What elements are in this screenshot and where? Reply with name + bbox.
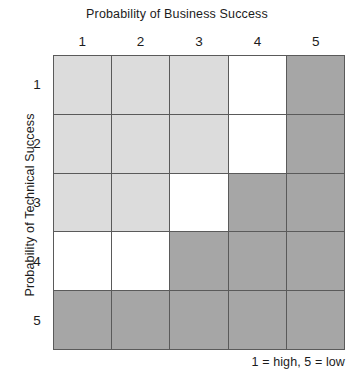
matrix-cell-r1-c3 bbox=[170, 56, 227, 114]
matrix-cell-r4-c1 bbox=[54, 232, 111, 290]
page-title: Probability of Business Success bbox=[0, 7, 354, 21]
matrix-cell-r5-c1 bbox=[54, 291, 111, 349]
matrix-cell-r5-c4 bbox=[229, 291, 286, 349]
matrix-cell-r3-c5 bbox=[287, 174, 344, 232]
matrix-cell-r5-c3 bbox=[170, 291, 227, 349]
column-header-2: 2 bbox=[111, 32, 169, 52]
matrix-cell-r3-c2 bbox=[112, 174, 169, 232]
matrix-cell-r4-c2 bbox=[112, 232, 169, 290]
matrix-cell-r1-c5 bbox=[287, 56, 344, 114]
matrix-cell-r4-c3 bbox=[170, 232, 227, 290]
matrix-cell-r2-c4 bbox=[229, 115, 286, 173]
matrix-cell-r3-c3 bbox=[170, 174, 227, 232]
matrix-cell-r1-c4 bbox=[229, 56, 286, 114]
legend-note: 1 = high, 5 = low bbox=[252, 355, 345, 369]
column-header-3: 3 bbox=[170, 32, 228, 52]
matrix-cell-r1-c1 bbox=[54, 56, 111, 114]
row-header-5: 5 bbox=[25, 291, 49, 350]
row-header-1: 1 bbox=[25, 55, 49, 114]
matrix-cell-r4-c5 bbox=[287, 232, 344, 290]
matrix-cell-r2-c1 bbox=[54, 115, 111, 173]
matrix-cell-r5-c2 bbox=[112, 291, 169, 349]
matrix-cell-r3-c4 bbox=[229, 174, 286, 232]
column-header-4: 4 bbox=[228, 32, 286, 52]
matrix-cell-r2-c3 bbox=[170, 115, 227, 173]
matrix-cell-r5-c5 bbox=[287, 291, 344, 349]
risk-matrix-grid bbox=[53, 55, 345, 350]
matrix-cell-r4-c4 bbox=[229, 232, 286, 290]
row-header-column: 1 2 3 4 5 bbox=[25, 55, 49, 350]
column-header-row: 1 2 3 4 5 bbox=[53, 32, 345, 52]
matrix-cell-r1-c2 bbox=[112, 56, 169, 114]
column-header-5: 5 bbox=[287, 32, 345, 52]
matrix-cell-r2-c5 bbox=[287, 115, 344, 173]
row-header-4: 4 bbox=[25, 232, 49, 291]
matrix-cell-r3-c1 bbox=[54, 174, 111, 232]
column-header-1: 1 bbox=[53, 32, 111, 52]
matrix-cell-r2-c2 bbox=[112, 115, 169, 173]
row-header-2: 2 bbox=[25, 114, 49, 173]
row-header-3: 3 bbox=[25, 173, 49, 232]
